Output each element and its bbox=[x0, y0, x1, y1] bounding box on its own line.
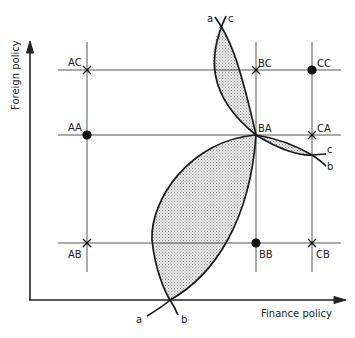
label-curve-c-right: c bbox=[327, 144, 333, 155]
dot-AA bbox=[83, 131, 91, 139]
label-BB: BB bbox=[259, 249, 273, 260]
x-axis-label: Finance policy bbox=[261, 308, 332, 319]
label-CB: CB bbox=[316, 249, 330, 260]
lens-right bbox=[256, 135, 312, 155]
lens-top bbox=[213, 22, 256, 135]
label-BC: BC bbox=[258, 58, 272, 69]
y-axis-arrow-icon bbox=[27, 41, 34, 53]
label-AC: AC bbox=[68, 57, 82, 68]
dot-CC bbox=[308, 66, 316, 74]
label-curve-b-right: b bbox=[327, 161, 333, 172]
label-curve-c-top: c bbox=[228, 13, 234, 24]
policy-diagram: AC BC CC AA BA CA AB BB CB a c c b a b F… bbox=[0, 0, 355, 338]
label-AB: AB bbox=[68, 249, 82, 260]
label-curve-b-bottom: b bbox=[181, 314, 187, 325]
label-CA: CA bbox=[317, 123, 331, 134]
dot-BB bbox=[252, 239, 260, 247]
lens-bottom bbox=[152, 135, 256, 300]
label-curve-a-top: a bbox=[207, 13, 213, 24]
shaded-regions bbox=[152, 22, 312, 300]
label-CC: CC bbox=[317, 58, 331, 69]
x-axis-arrow-icon bbox=[334, 297, 346, 304]
label-BA: BA bbox=[258, 123, 272, 134]
label-AA: AA bbox=[68, 122, 82, 133]
label-curve-a-bottom: a bbox=[136, 314, 142, 325]
y-axis-label: Foreign policy bbox=[10, 40, 21, 110]
